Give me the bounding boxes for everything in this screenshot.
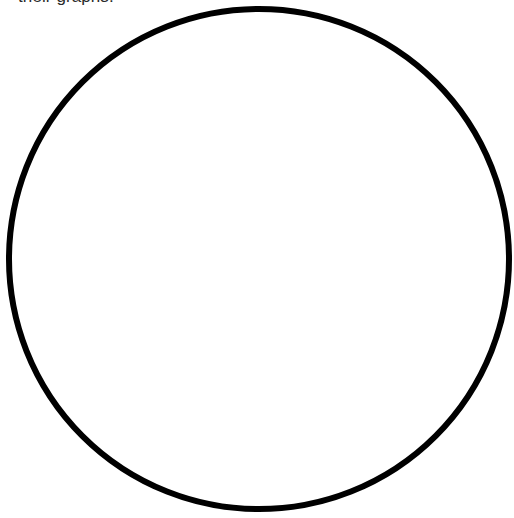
fraction-circle-diagram (0, 0, 514, 518)
circle-outline (9, 9, 509, 509)
fraction-circle-svg (0, 0, 514, 518)
worksheet-page: their graphs. (0, 0, 514, 518)
